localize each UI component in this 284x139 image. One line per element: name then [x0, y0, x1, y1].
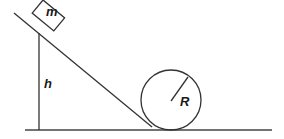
incline-ramp	[14, 13, 152, 127]
height-label: h	[44, 76, 52, 91]
radius-label: R	[180, 94, 190, 109]
mass-label: m	[46, 4, 58, 19]
loop-diagram: m h R	[0, 0, 284, 139]
